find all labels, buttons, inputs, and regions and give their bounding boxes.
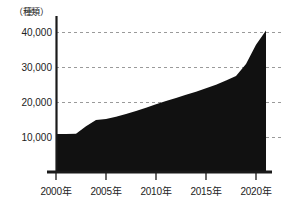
x-axis-tick-labels: 2000年 2005年 2010年 2015年 2020年	[0, 0, 287, 208]
x-tick-label-2015: 2015年	[190, 186, 221, 197]
x-tick-label-2000: 2000年	[40, 186, 71, 197]
x-tick-label-2010: 2010年	[140, 186, 171, 197]
chart-figure: （種類） 40,000 30,000 20,000 10,000 2000年 2…	[0, 0, 287, 208]
x-tick-label-2005: 2005年	[90, 186, 121, 197]
x-tick-label-2020: 2020年	[240, 186, 271, 197]
